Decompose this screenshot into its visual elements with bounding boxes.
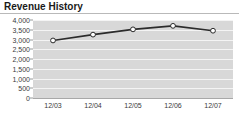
- chart-plot-container: 05001,0001,5002,0002,5003,0003,5004,000 …: [0, 16, 239, 114]
- revenue-line-series: [33, 20, 233, 98]
- x-axis-tick-label: 12/03: [44, 101, 62, 110]
- y-axis-tick-label: 3,000: [12, 36, 30, 43]
- data-point-marker[interactable]: [51, 38, 56, 43]
- y-axis-tick-label: 2,000: [12, 56, 30, 63]
- y-axis-tick-label: 3,500: [12, 26, 30, 33]
- y-axis-tick-label: 1,000: [12, 75, 30, 82]
- data-point-marker[interactable]: [171, 23, 176, 28]
- y-axis-tick-label: 1,500: [12, 65, 30, 72]
- y-axis-tick-label: 2,500: [12, 46, 30, 53]
- x-axis-tick-label: 12/06: [164, 101, 182, 110]
- x-axis-tick-labels: 12/0312/0412/0512/0612/07: [33, 101, 233, 114]
- x-axis-tick-label: 12/05: [124, 101, 142, 110]
- y-axis-tick-label: 500: [18, 85, 30, 92]
- revenue-history-chart-widget: Revenue History 05001,0001,5002,0002,500…: [0, 0, 239, 114]
- title-divider: [0, 13, 239, 14]
- data-point-marker[interactable]: [131, 27, 136, 32]
- x-axis-tick-label: 12/07: [204, 101, 222, 110]
- y-axis-tick-label: 4,000: [12, 17, 30, 24]
- data-point-marker[interactable]: [211, 28, 216, 33]
- data-point-marker[interactable]: [91, 32, 96, 37]
- plot-area: [33, 20, 233, 98]
- page-title: Revenue History: [4, 1, 83, 12]
- x-axis-tick-label: 12/04: [84, 101, 102, 110]
- y-axis-tick-labels: 05001,0001,5002,0002,5003,0003,5004,000: [0, 20, 33, 98]
- x-axis-line: [33, 98, 233, 99]
